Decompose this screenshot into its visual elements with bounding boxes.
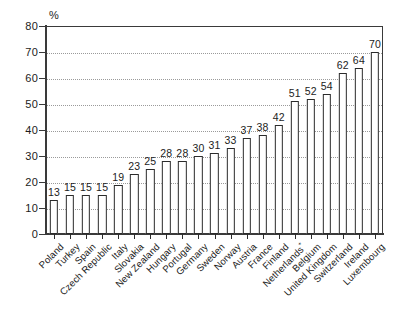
x-axis-tick [166,234,167,239]
x-axis-tick [86,234,87,239]
x-axis-tick [231,234,232,239]
y-axis-tick [39,78,45,79]
x-axis-tick [295,234,296,239]
x-axis-tick [247,234,248,239]
y-axis-tick [39,104,45,105]
x-axis-tick [279,234,280,239]
y-axis-tick [39,52,45,53]
x-axis-tick [118,234,119,239]
x-axis-tick [54,234,55,239]
x-axis-tick [343,234,344,239]
x-axis-tick [70,234,71,239]
x-axis-tick [263,234,264,239]
x-axis-tick [359,234,360,239]
x-axis-tick [150,234,151,239]
y-axis-tick [39,26,45,27]
x-axis-tick [198,234,199,239]
x-axis-tick [311,234,312,239]
x-axis-tick [215,234,216,239]
x-axis-tick [182,234,183,239]
x-axis-tick [134,234,135,239]
x-axis-tick [375,234,376,239]
y-axis-tick [39,130,45,131]
y-axis-tick [39,156,45,157]
y-axis-tick [39,208,45,209]
x-axis-tick [327,234,328,239]
y-axis-tick [39,234,45,235]
y-axis-tick [39,182,45,183]
bar-chart-figure: % 01020304050607080 13151515192325282830… [0,0,401,311]
x-axis-tick [102,234,103,239]
x-axis-labels: PolandTurkeySpainCzech RepublicItalySlov… [0,0,401,311]
